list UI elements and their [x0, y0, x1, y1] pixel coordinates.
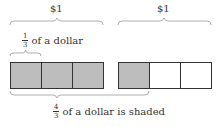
one-third-text: of a dollar [31, 35, 83, 46]
fraction-one-third: 1 3 [22, 33, 28, 49]
bar-left-cell-1 [11, 63, 42, 89]
fraction-denominator: 3 [53, 112, 59, 120]
bar-right [119, 63, 212, 89]
bar-left [11, 63, 104, 89]
bar-right-cell-2 [150, 63, 181, 89]
dollar-label-left: $1 [50, 4, 63, 14]
bar-left-cell-2 [42, 63, 73, 89]
dollar-label-right: $1 [157, 4, 170, 14]
bottom-brace [10, 91, 149, 98]
four-thirds-text: of a dollar is shaded [62, 106, 165, 117]
top-brace-right [118, 18, 211, 25]
fraction-numerator: 4 [53, 104, 59, 113]
one-third-label: 1 3 of a dollar [22, 30, 83, 49]
fraction-numerator: 1 [22, 33, 28, 42]
fraction-denominator: 3 [22, 41, 28, 49]
fraction-four-thirds: 4 3 [53, 104, 59, 120]
four-thirds-label: 4 3 of a dollar is shaded [53, 101, 165, 120]
bar-left-cell-3 [73, 63, 104, 89]
bar-right-cell-1 [119, 63, 150, 89]
bar-right-cell-3 [181, 63, 212, 89]
top-brace-left [10, 18, 103, 25]
third-brace [10, 50, 41, 56]
